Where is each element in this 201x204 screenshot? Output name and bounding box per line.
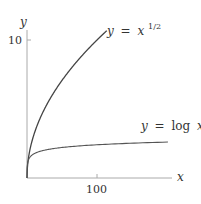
x-tick-label: 100 [86,183,107,196]
sqrt-series-label: y = x 1/2 [106,22,161,38]
chart: y 10 x 100 y = x 1/2 y = log x [0,0,201,204]
x-axis-label: x [177,170,184,184]
log-curve [27,142,168,178]
y-tick-label: 10 [8,34,22,47]
sqrt-curve [27,31,107,178]
y-axis-label: y [19,15,27,29]
chart-canvas: y 10 x 100 y = x 1/2 y = log x [0,0,201,204]
log-series-label: y = log x [140,119,201,133]
